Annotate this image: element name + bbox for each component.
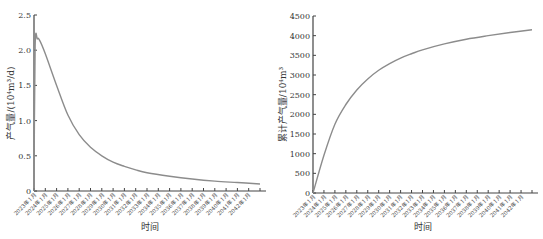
y-tick-label: 2000 [290, 110, 310, 119]
y-tick-label: 3000 [290, 71, 310, 80]
y-tick-label: 4000 [290, 32, 310, 41]
y-tick-label: 1.5 [18, 81, 31, 90]
y-tick-label: 1.0 [18, 117, 31, 126]
y-tick-label: 1500 [290, 130, 310, 139]
y-axis-title: 产气量/(10⁴m³/d) [5, 66, 16, 139]
dual-line-chart: 00.51.01.52.02.52023年1月2024年1月2025年1月202… [0, 0, 543, 239]
y-tick-label: 3500 [290, 51, 310, 60]
y-axis-title: 累计产气量/10⁴m³ [277, 66, 288, 142]
y-tick-label: 4500 [290, 12, 310, 21]
x-axis-title: 时间 [141, 221, 159, 232]
y-tick-label: 1000 [290, 150, 310, 159]
y-tick-label: 2.5 [18, 11, 31, 20]
cumulative-production-chart-line [313, 30, 532, 193]
production-rate-chart-line [34, 33, 260, 191]
y-tick-label: 0.5 [18, 152, 31, 161]
y-tick-label: 2500 [290, 91, 310, 100]
y-tick-label: 2.0 [18, 46, 31, 55]
x-axis-title: 时间 [414, 221, 432, 232]
y-tick-label: 500 [295, 169, 310, 178]
